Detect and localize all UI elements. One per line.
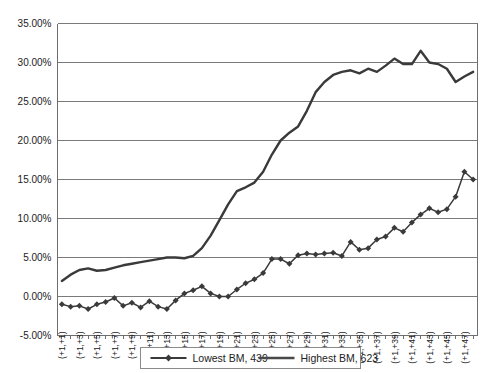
data-point-marker bbox=[59, 301, 65, 307]
x-axis-tick-label: (+1,+9) bbox=[127, 331, 137, 359]
data-point-marker bbox=[85, 306, 91, 312]
x-axis-tick-label: (+1,+7) bbox=[110, 331, 120, 359]
data-point-marker bbox=[278, 256, 284, 262]
data-point-marker bbox=[129, 300, 135, 306]
x-axis-tick-label: (+1,+41) bbox=[407, 331, 417, 363]
y-axis-tick-label: 10.00% bbox=[18, 213, 52, 224]
data-point-marker bbox=[330, 250, 336, 256]
legend-label-2: Highest BM, 623 bbox=[301, 352, 379, 364]
series-1 bbox=[59, 169, 476, 312]
y-axis-tick-label: 0.00% bbox=[23, 291, 51, 302]
y-axis-tick-label: 30.00% bbox=[18, 57, 52, 68]
chart-container: 35.00%30.00%25.00%20.00%15.00%10.00%5.00… bbox=[0, 0, 495, 373]
y-axis-tick-label: 15.00% bbox=[18, 174, 52, 185]
x-axis-tick-label: (+1,+43) bbox=[425, 331, 435, 363]
x-axis-tick-label: (+1,+5) bbox=[92, 331, 102, 359]
line-chart: 35.00%30.00%25.00%20.00%15.00%10.00%5.00… bbox=[0, 0, 495, 373]
x-axis-tick-label: (+1,+3) bbox=[75, 331, 85, 359]
y-axis-tick-label: 25.00% bbox=[18, 96, 52, 107]
legend-label-1: Lowest BM, 439 bbox=[193, 352, 268, 364]
series-line bbox=[62, 172, 473, 309]
data-point-marker bbox=[68, 304, 74, 310]
data-point-marker bbox=[216, 294, 222, 300]
x-axis-tick-label: (+1,+47) bbox=[460, 331, 470, 363]
data-point-marker bbox=[76, 303, 82, 309]
data-point-marker bbox=[94, 301, 100, 307]
x-axis-tick-label: (+1,+45) bbox=[442, 331, 452, 363]
y-axis-tick-label: 20.00% bbox=[18, 135, 52, 146]
data-point-marker bbox=[190, 287, 196, 293]
data-point-marker bbox=[435, 209, 441, 215]
series-2 bbox=[62, 51, 473, 281]
x-axis-tick-label: (+1,+39) bbox=[390, 331, 400, 363]
data-point-marker bbox=[313, 251, 319, 257]
series-line bbox=[62, 51, 473, 281]
data-point-marker bbox=[103, 299, 109, 305]
data-point-marker bbox=[321, 251, 327, 257]
y-axis-tick-label: 35.00% bbox=[18, 18, 52, 29]
data-point-marker bbox=[304, 251, 310, 257]
y-axis-tick-label: -5.00% bbox=[20, 330, 52, 341]
y-axis-tick-label: 5.00% bbox=[23, 252, 51, 263]
x-axis-tick-label: (+1,+1) bbox=[57, 331, 67, 359]
